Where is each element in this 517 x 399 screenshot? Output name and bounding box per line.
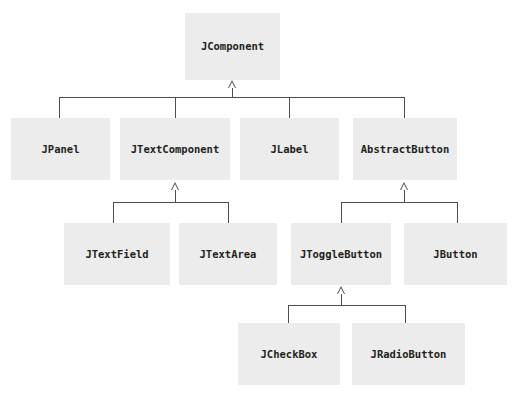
edge-drop-jpanel <box>59 97 60 118</box>
edge-drop-jtextfield <box>113 202 114 223</box>
class-node-jtextcomponent[interactable]: JTextComponent <box>120 118 230 180</box>
class-node-jbutton-label: JButton <box>433 249 477 260</box>
class-node-jtogglebutton[interactable]: JToggleButton <box>291 223 391 285</box>
class-node-jcheckbox[interactable]: JCheckBox <box>238 323 340 385</box>
class-node-jtextarea[interactable]: JTextArea <box>179 223 277 285</box>
edge-stem-jtextcomponent <box>175 190 176 202</box>
edge-drop-jtogglebutton <box>341 202 342 223</box>
class-node-jbutton[interactable]: JButton <box>404 223 507 285</box>
class-node-jpanel[interactable]: JPanel <box>11 118 110 180</box>
generalization-arrowhead-to-abstractbutton <box>400 182 408 190</box>
generalization-arrowhead-to-jtextcomponent <box>171 182 179 190</box>
edge-bus-jtogglebutton-children <box>288 305 406 306</box>
generalization-arrowhead-to-jtogglebutton <box>337 286 345 294</box>
edge-drop-jradiobutton <box>405 305 406 323</box>
edge-drop-abstractbutton <box>404 97 405 118</box>
generalization-arrowhead-to-jcomponent <box>228 80 236 88</box>
edge-stem-jtogglebutton <box>341 294 342 305</box>
class-node-jcomponent[interactable]: JComponent <box>185 13 280 80</box>
class-node-jlabel[interactable]: JLabel <box>240 118 339 180</box>
class-node-jtextfield[interactable]: JTextField <box>64 223 170 285</box>
edge-drop-jlabel <box>289 97 290 118</box>
edge-bus-abstractbutton-children <box>341 202 458 203</box>
class-node-jtogglebutton-label: JToggleButton <box>300 249 382 260</box>
class-node-jlabel-label: JLabel <box>271 144 309 155</box>
class-hierarchy-diagram: JComponent JPanel JTextComponent JLabel … <box>0 0 517 399</box>
class-node-jradiobutton[interactable]: JRadioButton <box>352 323 465 385</box>
class-node-jtextfield-label: JTextField <box>85 249 148 260</box>
edge-drop-jbutton <box>457 202 458 223</box>
edge-bus-jtextcomponent-children <box>113 202 229 203</box>
class-node-jtextcomponent-label: JTextComponent <box>131 144 220 155</box>
edge-drop-jcheckbox <box>288 305 289 323</box>
edge-drop-jtextarea <box>228 202 229 223</box>
class-node-jcomponent-label: JComponent <box>201 41 264 52</box>
edge-stem-abstractbutton <box>404 190 405 202</box>
class-node-jtextarea-label: JTextArea <box>200 249 257 260</box>
edge-bus-jcomponent-children <box>59 97 405 98</box>
class-node-abstractbutton[interactable]: AbstractButton <box>353 118 457 180</box>
class-node-abstractbutton-label: AbstractButton <box>361 144 450 155</box>
class-node-jpanel-label: JPanel <box>42 144 80 155</box>
class-node-jradiobutton-label: JRadioButton <box>371 349 447 360</box>
edge-drop-jtextcomponent <box>175 97 176 118</box>
class-node-jcheckbox-label: JCheckBox <box>261 349 318 360</box>
